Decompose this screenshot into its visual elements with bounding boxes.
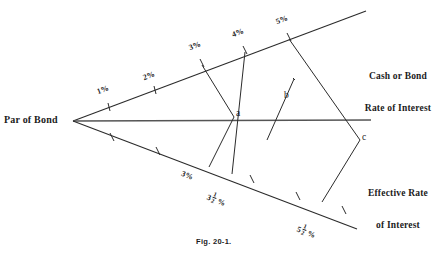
vertex-label-par-of-bond: Par of Bond (4, 114, 58, 125)
fraction-denominator: 2 (300, 229, 306, 236)
upper-axis-line (73, 11, 366, 121)
lower-axis-name: Effective Rate of Interest (359, 167, 437, 252)
point-label-a: a (236, 108, 240, 119)
tick-lower-5 (342, 206, 346, 214)
transversal-3pct (202, 65, 234, 117)
tick-lower-1 (110, 133, 114, 141)
upper-axis-name: Cash or Bond Rate of Interest (359, 50, 437, 135)
upper-axis-name-line1: Cash or Bond (359, 71, 437, 82)
transversal-5pct-lower (322, 140, 360, 202)
fraction-denominator: 2 (210, 197, 216, 204)
lower-axis-name-line2: of Interest (359, 220, 437, 231)
figure-20-1: Par of Bond 1% 2% 3% 4% 5% 3% 312 % 512 … (0, 0, 439, 254)
transversal-5pct (289, 39, 360, 140)
lower-axis-name-line1: Effective Rate (359, 188, 437, 199)
figure-caption: Fig. 20-1. (196, 238, 232, 246)
tick-lower-4 (296, 192, 300, 200)
tick-lower-3 (250, 175, 254, 183)
horizontal-axis-line (73, 120, 371, 121)
point-label-b: b (284, 90, 289, 101)
upper-axis-name-line2: Rate of Interest (359, 103, 437, 114)
segment-b-main (267, 79, 294, 140)
transversal-3pct-lower (209, 117, 234, 167)
lower-axis-ticks (110, 133, 346, 214)
